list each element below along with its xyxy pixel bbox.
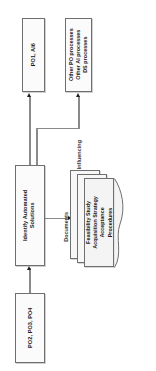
node-other-processes-label: Other PO processes Other AI processes DS… (68, 29, 89, 82)
node-other-processes-line1: Other PO processes (68, 29, 74, 82)
node-identify-automated-solutions-label: Identify Automated Solutions (23, 190, 38, 241)
node-documents-stack[interactable]: Feasibility Study Acquisition Strategy A… (70, 170, 136, 272)
edge-label-influencing: Influencing (76, 140, 82, 169)
node-po1-ai6[interactable]: PO1, AI6 (22, 18, 45, 92)
node-documents-label: Feasibility Study Acquisition Strategy A… (85, 196, 114, 248)
node-other-processes[interactable]: Other PO processes Other AI processes DS… (65, 18, 92, 92)
documents-line2: Acquisition Strategy (92, 196, 98, 248)
node-po1-ai6-label: PO1, AI6 (30, 43, 37, 66)
connector-influencing-segment-lower (36, 128, 37, 168)
node-identify-automated-solutions[interactable]: Identify Automated Solutions (15, 165, 45, 266)
diagram-canvas: PO1, AI6 Other PO processes Other AI pro… (0, 0, 156, 371)
arrow-into-other-processes (76, 93, 80, 97)
document-sheet-front: Feasibility Study Acquisition Strategy A… (84, 178, 114, 267)
edge-label-documents: Documents (63, 212, 69, 242)
documents-line4: Procedures (106, 208, 112, 238)
node-identify-line1: Identify Automated (23, 190, 29, 241)
connector-po2-to-identify (29, 268, 30, 293)
document-wave-edge (114, 178, 128, 268)
arrow-into-identify (27, 266, 31, 270)
connector-influencing-segment-horizontal (36, 128, 80, 129)
node-identify-line2: Solutions (30, 203, 36, 229)
node-other-processes-line3: DS processes (82, 37, 88, 73)
arrow-into-po1 (27, 93, 31, 97)
node-po2-po3-po4[interactable]: PO2, PO3, PO4 (15, 293, 45, 363)
documents-line1: Feasibility Study (85, 201, 91, 244)
node-other-processes-line2: Other AI processes (75, 30, 81, 80)
documents-line3: Acceptance (99, 207, 105, 237)
node-po2-po3-po4-label: PO2, PO3, PO4 (26, 308, 33, 348)
connector-identify-to-po1 (29, 96, 30, 165)
connector-influencing-segment-upper (78, 96, 79, 129)
